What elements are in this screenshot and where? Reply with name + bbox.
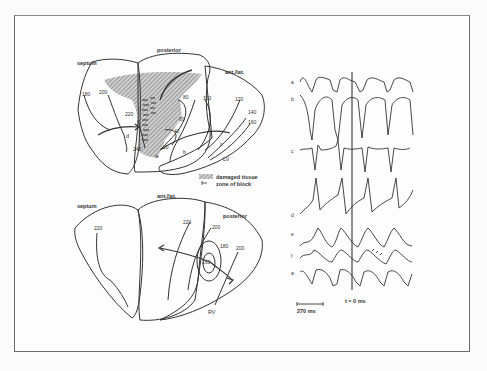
trace-label-f: f (291, 253, 293, 259)
site-b: b (183, 149, 186, 155)
trace-label-a-bottom: a (291, 270, 294, 276)
figure-canvas: septum posterior ant./lat. LV 180 200 22… (0, 0, 487, 371)
scale-bar-label: 270 ms (297, 308, 316, 314)
site-d: d (126, 133, 129, 139)
electrogram-traces (297, 72, 413, 306)
label-antlat-bottom: ant./lat. (157, 193, 177, 199)
isochrone-40: 40 (174, 128, 180, 134)
isochrone-20: 20 (163, 144, 169, 150)
time-zero-label: t = 0 ms (345, 298, 366, 304)
trace-c (300, 140, 410, 172)
trace-label-b: b (291, 96, 294, 102)
isochrone-200: 200 (99, 89, 108, 95)
trace-d (300, 178, 413, 214)
isochrone-180: 180 (82, 91, 91, 97)
damaged-tissue-region (104, 72, 202, 157)
label-septum-bottom: septum (77, 203, 97, 209)
rv-isochrone-200-a: 200 (212, 224, 221, 230)
rv-isochrone-200-b: 200 (236, 245, 245, 251)
trace-e (300, 228, 412, 247)
trace-label-e: e (291, 231, 294, 237)
isochrone-120: 120 (235, 96, 244, 102)
block-symbol-icon (202, 181, 207, 185)
legend-hatch-swatch (199, 174, 213, 179)
label-rv: RV (208, 309, 216, 315)
rv-isochrone-220-a: 220 (94, 225, 103, 231)
legend: damaged tissue zone of block (199, 174, 258, 187)
isochrone-60: 60 (179, 116, 185, 122)
isochrone-80: 80 (183, 94, 189, 100)
isochrone-140: 140 (248, 109, 257, 115)
label-lv: LV (223, 156, 230, 162)
isochrone-220: 220 (125, 111, 134, 117)
rv-posterior-outline (160, 202, 262, 320)
trace-label-a-top: a (291, 79, 294, 85)
label-antlat-top: ant./lat. (225, 69, 245, 75)
label-posterior-bottom: posterior (223, 213, 248, 219)
isochrone-100: 100 (203, 95, 212, 101)
trace-f (300, 250, 412, 264)
trace-b (300, 95, 413, 140)
isochrone-240: 240 (133, 146, 142, 152)
trace-label-d: d (291, 212, 294, 218)
scale-bar (297, 302, 323, 306)
trace-a-top (300, 77, 413, 92)
rv-septum-outline (75, 205, 143, 318)
label-septum-top: septum (77, 60, 97, 66)
isochrone-160: 160 (248, 119, 257, 125)
label-posterior-top: posterior (157, 47, 182, 53)
trace-a-bottom (300, 269, 412, 286)
rv-isochrone-220-b: 220 (183, 219, 192, 225)
legend-block-label: zone of block (216, 181, 252, 187)
trace-label-c: c (291, 148, 294, 154)
legend-damaged-label: damaged tissue (216, 174, 258, 180)
rv-isochrone-160: 160 (202, 259, 211, 265)
rv-isochrone-180: 180 (220, 243, 229, 249)
